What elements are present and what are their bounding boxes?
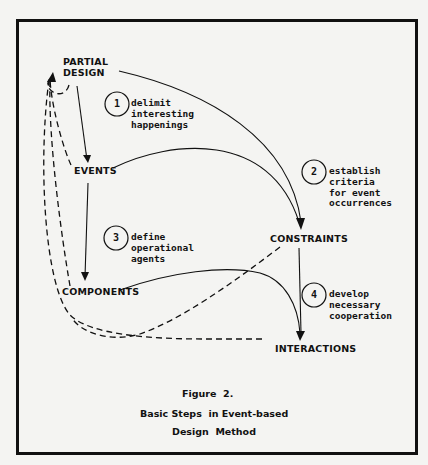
step-1-number: 1 — [105, 92, 129, 116]
step-2-description: establish criteria for event occurrences — [329, 166, 392, 209]
step-3-description: define operational agents — [131, 232, 194, 264]
step-3-number: 3 — [104, 226, 128, 250]
node-partial-design: PARTIAL DESIGN — [63, 56, 108, 78]
node-constraints: CONSTRAINTS — [270, 233, 348, 244]
arrow-components-to-interactions — [120, 270, 305, 341]
arrow-events-to-components — [81, 183, 89, 281]
step-4-description: develop necessary cooperation — [329, 289, 392, 321]
node-events: EVENTS — [74, 165, 117, 176]
event-based-design-method-figure: PARTIAL DESIGN EVENTS CONSTRAINTS COMPON… — [0, 0, 428, 465]
arrow-partial-design-to-events — [77, 86, 91, 163]
arrow-constraints-to-interactions — [299, 248, 301, 333]
dashed-arrowhead-partial-design — [47, 72, 56, 82]
step-2-number: 2 — [302, 160, 326, 184]
step-4-number: 4 — [302, 283, 326, 307]
node-interactions: INTERACTIONS — [275, 343, 356, 354]
figure-title-line1: Basic Steps in Event-based — [140, 408, 288, 419]
step-1-description: delimit interesting happenings — [131, 98, 194, 130]
arrow-partial-design-to-constraints — [119, 71, 301, 222]
node-components: COMPONENTS — [62, 286, 139, 297]
figure-label: Figure 2. — [182, 388, 233, 399]
figure-title-line2: Design Method — [172, 426, 256, 437]
dashed-components-to-partial-design — [50, 80, 70, 286]
